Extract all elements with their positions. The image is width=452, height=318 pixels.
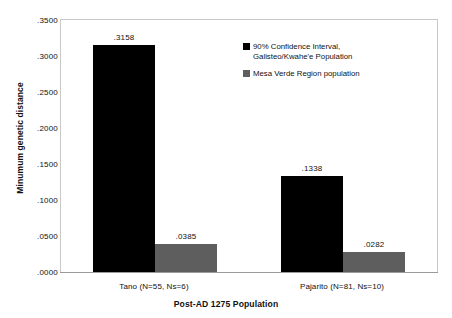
y-tick-label: .2500 [26,88,58,97]
y-tick-label: .2000 [26,124,58,133]
x-axis-title: Post-AD 1275 Population [0,299,452,309]
bar-chart-figure: Minumum genetic distance .0000.0500.1000… [0,0,452,318]
legend-swatch-icon-series-b [243,70,250,77]
x-tick-label: Pajarito (N=81, Ns=10) [300,282,384,291]
y-axis-ticks: .0000.0500.1000.1500.2000.2500.3000.3500 [26,0,58,275]
y-tick-label: .3000 [26,52,58,61]
bar-value-label: .1338 [281,164,343,173]
bar [281,176,343,272]
y-tick-label: .1000 [26,196,58,205]
chart-legend: 90% Confidence Interval,Galisteo/Kwahe'e… [243,42,418,86]
legend-label-series-a-line1: 90% Confidence Interval, [253,42,340,51]
x-axis-ticks: Tano (N=55, Ns=6)Pajarito (N=81, Ns=10) [60,282,438,296]
legend-swatch-icon-series-a [243,43,250,50]
legend-label-series-b: Mesa Verde Region population [253,69,360,79]
y-axis-title-text: Minumum genetic distance [15,82,25,194]
y-tick-label: .0500 [26,232,58,241]
legend-label-series-a: 90% Confidence Interval,Galisteo/Kwahe'e… [253,42,352,62]
legend-item-confidence-interval: 90% Confidence Interval,Galisteo/Kwahe'e… [243,42,418,62]
bar-value-label: .0385 [155,232,217,241]
bar [155,244,217,272]
y-tick-label: .1500 [26,160,58,169]
y-tick-label: .0000 [26,268,58,277]
bar-value-label: .3158 [93,33,155,42]
bar [93,45,155,272]
legend-label-series-a-line2: Galisteo/Kwahe'e Population [253,52,352,61]
y-tick-label: .3500 [26,16,58,25]
legend-item-mesa-verde: Mesa Verde Region population [243,69,418,79]
x-tick-label: Tano (N=55, Ns=6) [119,282,188,291]
x-axis-baseline [60,272,438,273]
bar [343,252,405,272]
bar-value-label: .0282 [343,240,405,249]
